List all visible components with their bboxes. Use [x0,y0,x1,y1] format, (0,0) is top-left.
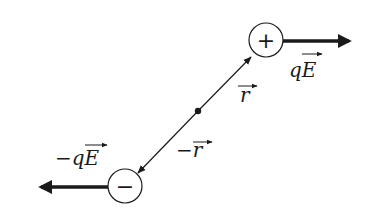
svg-text:qE: qE [289,58,317,82]
dipole-center-dot [195,108,201,114]
label-force-negative: −qE [55,145,107,170]
svg-text:−qE: −qE [55,146,100,170]
positive-charge: + [249,23,283,57]
dipole-diagram: + − qE r −r −qE [0,0,372,223]
label-minus-r-vector: −r [176,138,212,162]
svg-text:r: r [240,83,251,107]
minus-symbol: − [116,174,134,199]
svg-text:−r: −r [176,138,204,162]
label-r-vector: r [238,83,257,107]
plus-symbol: + [257,28,275,53]
negative-charge: − [108,169,142,203]
label-force-positive: qE [289,54,322,82]
